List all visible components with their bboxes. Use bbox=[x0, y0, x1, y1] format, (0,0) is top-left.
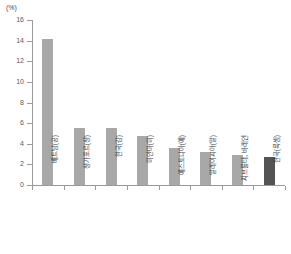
category-label: 지브롤터, 바레인 bbox=[241, 135, 249, 193]
x-tick-mark bbox=[285, 186, 286, 190]
x-tick-mark bbox=[32, 186, 33, 190]
y-axis-unit-label: (%) bbox=[6, 4, 17, 11]
y-tick-label: 10 bbox=[0, 77, 24, 86]
x-tick-mark bbox=[127, 186, 128, 190]
x-tick-mark bbox=[190, 186, 191, 190]
y-tick-label: 2 bbox=[0, 159, 24, 168]
bar-chart: (%) 0246810121416 베트남(공)싱가포르(싱)한국(감)미얀마(… bbox=[0, 0, 291, 254]
category-label: 한국(감) bbox=[115, 135, 123, 193]
category-label: 에스토니아(에) bbox=[178, 135, 186, 193]
category-label: 싱가포르(싱) bbox=[83, 135, 91, 193]
x-tick-mark bbox=[222, 186, 223, 190]
y-tick-label: 8 bbox=[0, 98, 24, 107]
category-label: 베트남(공) bbox=[51, 135, 59, 193]
y-tick-label: 4 bbox=[0, 139, 24, 148]
y-tick-label: 12 bbox=[0, 56, 24, 65]
x-tick-mark bbox=[253, 186, 254, 190]
x-tick-mark bbox=[95, 186, 96, 190]
x-tick-mark bbox=[159, 186, 160, 190]
y-tick-label: 16 bbox=[0, 15, 24, 24]
y-tick-label: 0 bbox=[0, 180, 24, 189]
category-label: 말레이시아(말) bbox=[209, 135, 217, 193]
category-label: 한국(룩셈) bbox=[273, 135, 281, 193]
y-tick-label: 14 bbox=[0, 36, 24, 45]
y-tick-label: 6 bbox=[0, 118, 24, 127]
category-label: 미얀마(미) bbox=[146, 135, 154, 193]
x-tick-mark bbox=[64, 186, 65, 190]
